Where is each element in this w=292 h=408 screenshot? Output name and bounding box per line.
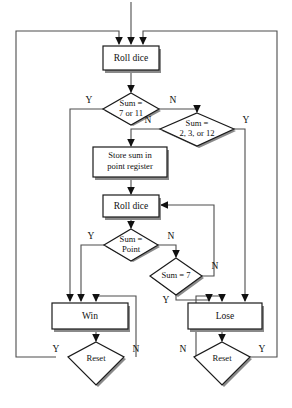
lose-label: Lose: [216, 311, 234, 321]
node-roll-dice-2[interactable]: Roll dice: [103, 195, 161, 220]
roll-dice-1-label: Roll dice: [114, 53, 149, 63]
branch-label-sum23or12-yes: Y: [243, 115, 250, 125]
connector-sum23or12-yes-to-lose: [234, 129, 245, 301]
node-roll-dice-1[interactable]: Roll dice: [103, 46, 161, 73]
branch-label-sum7or11-no: N: [170, 95, 177, 105]
arrowhead-into-sumpoint: [127, 221, 135, 229]
branch-label-sum7-no: N: [212, 261, 219, 271]
win-label: Win: [82, 311, 98, 321]
connector-sumpoint-yes-to-win: [81, 245, 104, 301]
arrowheads: [66, 37, 249, 342]
arrowhead-into-roll1-left: [115, 37, 123, 45]
sum-7-label: Sum = 7: [161, 270, 191, 280]
branch-label-reset-lose-yes: Y: [259, 344, 266, 354]
branch-label-reset-win-no: N: [133, 344, 140, 354]
node-reset-win[interactable]: Reset: [68, 342, 126, 387]
arrowhead-into-lose-2: [218, 294, 226, 302]
branch-label-reset-lose-no: N: [180, 344, 187, 354]
arrowhead-into-reset-lose: [218, 334, 226, 342]
sum-point-label-line1: Sum =: [120, 234, 143, 244]
branch-label-sumpoint-no: N: [168, 231, 175, 241]
node-reset-lose[interactable]: Reset: [194, 342, 252, 387]
arrowhead-into-store: [127, 139, 135, 147]
roll-dice-2-label: Roll dice: [114, 201, 149, 211]
arrowhead-into-roll1-right: [139, 37, 147, 45]
connector-sum23or12-no-to-store: [131, 129, 160, 146]
arrowhead-into-sum7or11: [127, 85, 135, 93]
node-store-sum[interactable]: Store sum in point register: [93, 147, 169, 180]
arrowhead-into-roll2-right: [160, 201, 168, 209]
arrowhead-into-win-2: [77, 294, 85, 302]
arrowhead-into-roll2: [127, 187, 135, 195]
reset-lose-diamond: [194, 342, 250, 385]
reset-lose-label: Reset: [212, 353, 232, 363]
arrowhead-into-roll1-center: [127, 37, 135, 45]
store-sum-label-line1: Store sum in: [108, 150, 152, 160]
arrowhead-into-win-1: [66, 294, 74, 302]
reset-win-label: Reset: [86, 353, 106, 363]
arrowhead-into-lose-1: [205, 294, 213, 302]
arrowhead-into-lose-3: [241, 294, 249, 302]
flowchart-canvas: Roll dice Sum = 7 or 11 Y N Sum = 2, 3, …: [0, 0, 292, 408]
craps-flowchart-svg: Roll dice Sum = 7 or 11 Y N Sum = 2, 3, …: [0, 0, 292, 408]
branch-label-sum23or12-no: N: [145, 115, 152, 125]
node-sum-2-3-12[interactable]: Sum = 2, 3, or 12: [160, 113, 236, 148]
node-lose[interactable]: Lose: [188, 303, 264, 332]
connector-sum7or11-no-to-sum23or12: [159, 109, 197, 112]
sum-2-3-12-label-line2: 2, 3, or 12: [179, 128, 214, 138]
branch-label-sumpoint-yes: Y: [88, 231, 95, 241]
branch-label-sum7or11-yes: Y: [86, 95, 93, 105]
connector-sum7or11-yes-to-win: [70, 109, 103, 301]
branch-label-sum7-yes: Y: [163, 295, 170, 305]
arrowhead-into-win-3: [92, 294, 100, 302]
node-win[interactable]: Win: [52, 303, 130, 332]
node-sum-7-or-11[interactable]: Sum = 7 or 11: [103, 93, 161, 126]
sum-7-or-11-label-line1: Sum =: [120, 98, 143, 108]
sum-7-or-11-label-line2: 7 or 11: [119, 108, 143, 118]
branch-label-reset-win-yes: Y: [53, 344, 60, 354]
node-sum-point[interactable]: Sum = Point: [104, 229, 160, 262]
arrowhead-into-reset-win: [92, 334, 100, 342]
sum-2-3-12-label-line1: Sum =: [186, 118, 209, 128]
sum-point-label-line2: Point: [122, 244, 141, 254]
node-sum-7[interactable]: Sum = 7: [150, 258, 204, 297]
arrowhead-into-sum7: [172, 250, 180, 258]
store-sum-label-line2: point register: [107, 161, 153, 171]
reset-win-diamond: [68, 342, 124, 385]
